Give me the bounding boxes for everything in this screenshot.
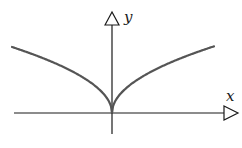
y-axis-arrow-icon	[105, 12, 119, 25]
function-graph: y x	[0, 0, 242, 148]
y-axis-label: y	[123, 8, 133, 26]
curve	[12, 46, 214, 113]
x-axis-arrow-icon	[224, 106, 238, 120]
x-axis-label: x	[226, 87, 235, 105]
